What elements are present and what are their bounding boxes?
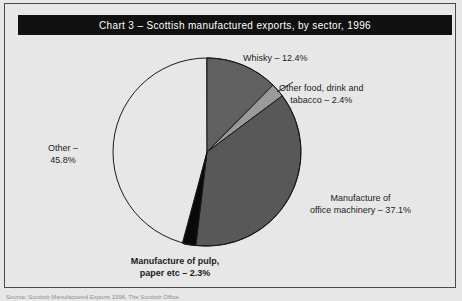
pie-label-other-food-line2: tabacco – 2.4% <box>279 94 364 106</box>
pie-label-other-line1: Other – <box>25 142 101 154</box>
pie-label-pulp-paper-line2: paper etc – 2.3% <box>89 267 261 279</box>
pie-label-other-line2: 45.8% <box>25 154 101 166</box>
pie-label-whisky: Whisky – 12.4% <box>243 52 308 64</box>
pie-label-office-machinery-line2: office machinery – 37.1% <box>310 204 411 216</box>
pie-label-whisky-text: Whisky – 12.4% <box>243 52 308 64</box>
pie-label-other-food: Other food, drink and tabacco – 2.4% <box>279 82 364 106</box>
chart-figure-frame: Chart 3 – Scottish manufactured exports,… <box>4 3 456 288</box>
pie-label-office-machinery: Manufacture of office machinery – 37.1% <box>310 192 411 216</box>
chart-screenshot: Chart 3 – Scottish manufactured exports,… <box>0 0 462 301</box>
chart-source-caption: Source: Scottish Manufactured Exports 19… <box>6 293 456 301</box>
pie-label-other-food-line1: Other food, drink and <box>279 82 364 94</box>
pie-label-pulp-paper: Manufacture of pulp, paper etc – 2.3% <box>89 255 261 279</box>
pie-label-office-machinery-line1: Manufacture of <box>310 192 411 204</box>
pie-label-other: Other – 45.8% <box>25 142 101 166</box>
pie-label-pulp-paper-line1: Manufacture of pulp, <box>89 255 261 267</box>
